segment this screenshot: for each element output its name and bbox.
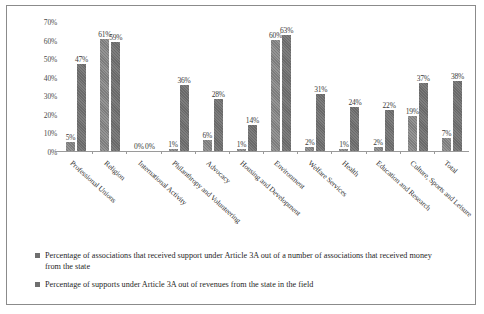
bar-value-label: 1%: [237, 140, 247, 149]
x-axis-label-cell: Education and Research: [365, 158, 399, 238]
bar-value-label: 24%: [348, 98, 361, 107]
bar[interactable]: 7%: [442, 138, 451, 151]
y-axis-tick: 60%: [21, 36, 57, 45]
bar[interactable]: 38%: [453, 81, 462, 151]
bar-value-label: 38%: [451, 72, 464, 81]
bar[interactable]: 60%: [271, 40, 280, 151]
bar-group: 60%63%: [264, 22, 298, 151]
x-axis-label-cell: Professional Unions: [59, 158, 93, 238]
bar[interactable]: 37%: [419, 83, 428, 151]
y-axis-tick: 70%: [21, 18, 57, 27]
bar[interactable]: 5%: [66, 142, 75, 151]
legend-label: Percentage of associations that received…: [45, 250, 440, 272]
x-axis-label-cell: Advocacy: [195, 158, 229, 238]
legend-item[interactable]: Percentage of supports under Article 3A …: [35, 279, 457, 290]
y-axis-tick: 30%: [21, 92, 57, 101]
bar-value-label: 5%: [66, 133, 76, 142]
bar[interactable]: 6%: [203, 140, 212, 151]
bar-value-label: 28%: [212, 90, 225, 99]
x-axis-label-cell: International Activity: [127, 158, 161, 238]
x-axis-label-cell: Housing and Development: [229, 158, 263, 238]
x-axis-baseline: [55, 151, 469, 152]
legend-swatch-icon: [35, 253, 40, 258]
plot-area: 5%47%61%59%0%0%1%36%6%28%1%14%60%63%2%31…: [59, 22, 469, 152]
bar-value-label: 59%: [109, 33, 122, 42]
x-axis-label-cell: Health: [331, 158, 365, 238]
bar-value-label: 36%: [178, 76, 191, 85]
chart-figure-frame: 0%10%20%30%40%50%60%70% 5%47%61%59%0%0%1…: [6, 5, 476, 305]
y-axis-tick: 0%: [21, 148, 57, 157]
bar[interactable]: 24%: [350, 107, 359, 151]
bar[interactable]: 31%: [316, 94, 325, 151]
x-axis-label: Total: [442, 159, 459, 176]
x-axis-label-cell: Religion: [93, 158, 127, 238]
legend-swatch-icon: [35, 282, 40, 287]
bar-value-label: 6%: [202, 131, 212, 140]
bar-value-label: 1%: [168, 140, 178, 149]
bar-value-label: 14%: [246, 116, 259, 125]
bar-group: 1%24%: [332, 22, 366, 151]
bar[interactable]: 63%: [282, 35, 291, 151]
x-axis-labels: Professional UnionsReligionInternational…: [59, 158, 467, 238]
bar[interactable]: 28%: [214, 99, 223, 151]
x-axis-label-cell: Total: [433, 158, 467, 238]
x-axis-label: Health: [340, 159, 360, 179]
bar[interactable]: 36%: [180, 85, 189, 151]
bar-groups: 5%47%61%59%0%0%1%36%6%28%1%14%60%63%2%31…: [59, 22, 469, 151]
bar[interactable]: 61%: [100, 39, 109, 151]
bar-value-label: 37%: [417, 74, 430, 83]
chart-legend: Percentage of associations that received…: [35, 250, 457, 297]
bar-group: 1%14%: [230, 22, 264, 151]
bar[interactable]: 47%: [77, 64, 86, 151]
bar-group: 5%47%: [59, 22, 93, 151]
bar-value-label: 2%: [305, 138, 315, 147]
y-axis-tick: 10%: [21, 129, 57, 138]
x-axis-label: Religion: [102, 159, 127, 182]
plot-wrapper: 0%10%20%30%40%50%60%70% 5%47%61%59%0%0%1…: [7, 12, 477, 162]
bar-value-label: 63%: [280, 26, 293, 35]
bar[interactable]: 22%: [385, 110, 394, 151]
legend-item[interactable]: Percentage of associations that received…: [35, 250, 457, 272]
x-axis-label-cell: Philanthropy and Volunteering: [161, 158, 195, 238]
bar-value-label: 47%: [75, 55, 88, 64]
bar[interactable]: 14%: [248, 125, 257, 151]
bar-group: 7%38%: [435, 22, 469, 151]
bar-value-label: 22%: [383, 101, 396, 110]
bar-value-label: 1%: [339, 140, 349, 149]
x-axis-label-cell: Culture, Sports and Leisure: [399, 158, 433, 238]
x-axis-label-cell: Welfare Services: [297, 158, 331, 238]
legend-label: Percentage of supports under Article 3A …: [45, 279, 313, 290]
bar-group: 0%0%: [127, 22, 161, 151]
bar-value-label: 2%: [373, 138, 383, 147]
y-axis-tick: 20%: [21, 110, 57, 119]
bar-group: 19%37%: [401, 22, 435, 151]
bar-value-label: 31%: [314, 85, 327, 94]
bar[interactable]: 59%: [111, 42, 120, 151]
bar-value-label: 19%: [406, 107, 419, 116]
bar-group: 61%59%: [93, 22, 127, 151]
bar-value-label: 0%: [134, 142, 144, 151]
bar-value-label: 0%: [145, 142, 155, 151]
y-axis-tick: 40%: [21, 73, 57, 82]
bar-group: 1%36%: [162, 22, 196, 151]
bar[interactable]: 19%: [408, 116, 417, 151]
y-axis: 0%10%20%30%40%50%60%70%: [21, 22, 57, 152]
bar-value-label: 7%: [442, 129, 452, 138]
bar-group: 2%22%: [367, 22, 401, 151]
x-axis-label-cell: Environment: [263, 158, 297, 238]
bar-group: 6%28%: [196, 22, 230, 151]
y-axis-tick: 50%: [21, 55, 57, 64]
bar-group: 2%31%: [298, 22, 332, 151]
